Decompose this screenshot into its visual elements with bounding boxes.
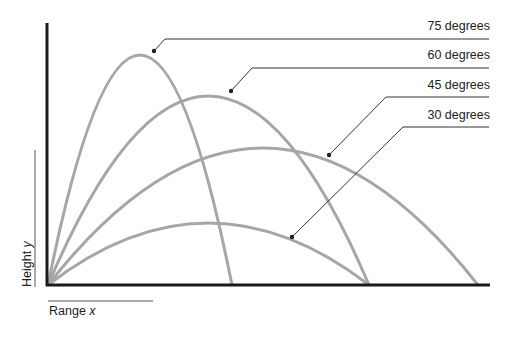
label-60-degrees: 60 degrees bbox=[427, 48, 490, 62]
x-axis-variable: x bbox=[89, 304, 95, 318]
y-axis-label: Height y bbox=[20, 241, 34, 287]
leader-30-degrees bbox=[290, 127, 489, 239]
label-45-degrees: 45 degrees bbox=[427, 78, 490, 92]
label-75-degrees: 75 degrees bbox=[427, 19, 490, 33]
label-30-degrees: 30 degrees bbox=[427, 108, 490, 122]
x-axis-label-text: Range bbox=[49, 304, 86, 318]
x-axis-label: Range x bbox=[49, 304, 96, 318]
y-axis-label-text: Height bbox=[20, 251, 34, 287]
trajectory-45-degrees bbox=[48, 148, 478, 285]
y-axis-variable: y bbox=[20, 241, 34, 247]
trajectory-60-degrees bbox=[48, 96, 369, 285]
